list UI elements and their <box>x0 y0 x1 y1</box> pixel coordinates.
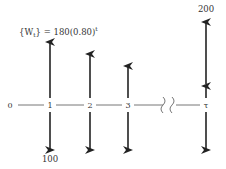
cash-flow-diagram: 0 1 2 3 τ {Wt} = 180(0.80)t 200 100 <box>0 0 226 169</box>
time-axis <box>18 97 200 113</box>
axis-label-1: 1 <box>47 101 52 110</box>
bottom-value-label: 100 <box>42 154 58 164</box>
axis-label-3: 3 <box>125 101 130 110</box>
top-value-label: 200 <box>198 4 214 14</box>
axis-label-2: 2 <box>87 101 92 110</box>
axis-label-0: 0 <box>7 101 12 110</box>
axis-label-tau: τ <box>204 101 209 110</box>
formula-label: {Wt} = 180(0.80)t <box>19 25 98 38</box>
down-arrows <box>50 112 206 150</box>
